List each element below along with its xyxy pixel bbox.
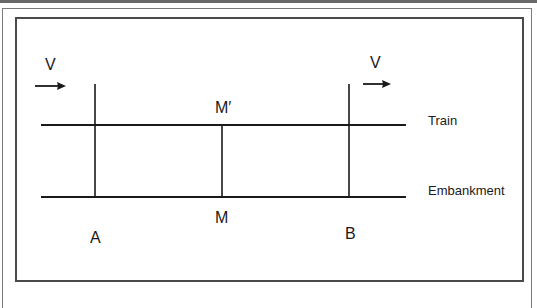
velocity-arrow-left-icon: [35, 82, 66, 90]
point-m-prime-label: M′: [215, 100, 231, 116]
embankment-label: Embankment: [428, 184, 505, 197]
point-m-label: M: [215, 210, 228, 226]
velocity-arrow-right-icon: [363, 80, 391, 88]
point-b-label: B: [345, 226, 356, 242]
point-a-label: A: [90, 230, 101, 246]
train-label: Train: [428, 114, 457, 127]
velocity-label-right: V: [370, 55, 381, 71]
velocity-label-left: V: [45, 57, 56, 73]
